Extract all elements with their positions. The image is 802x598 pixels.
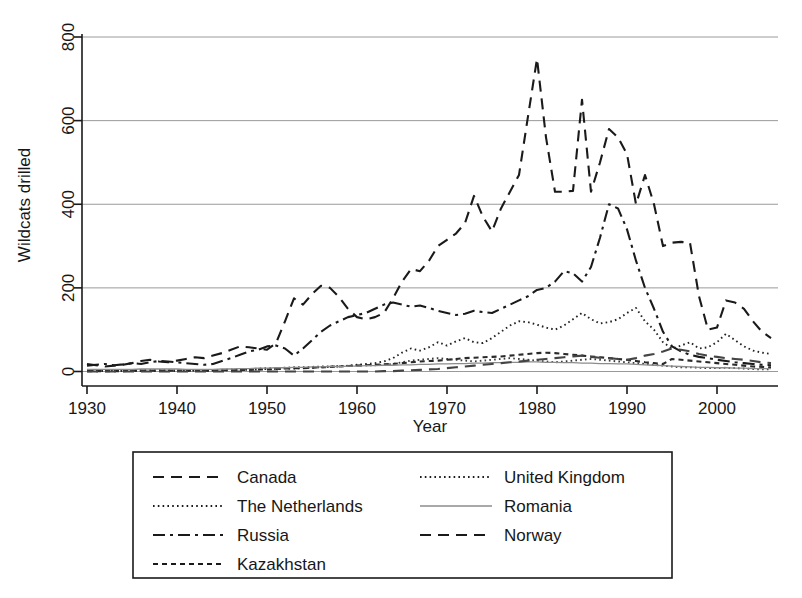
x-tick-label: 1980 [518, 399, 556, 418]
legend-label[interactable]: The Netherlands [237, 497, 363, 516]
chart-background [0, 0, 802, 598]
legend-label[interactable]: Romania [504, 497, 573, 516]
x-tick-label: 2000 [698, 399, 736, 418]
chart-canvas: 0200400600800 19301940195019601970198019… [0, 0, 802, 598]
legend-label[interactable]: Norway [504, 526, 562, 545]
legend-label[interactable]: Kazakhstan [237, 555, 326, 574]
x-axis-title: Year [413, 417, 448, 436]
x-tick-label: 1950 [248, 399, 286, 418]
y-tick-label: 600 [59, 106, 78, 134]
x-tick-label: 1990 [608, 399, 646, 418]
x-tick-label: 1930 [68, 399, 106, 418]
y-tick-label: 400 [59, 190, 78, 218]
y-tick-label: 800 [59, 23, 78, 51]
wildcats-drilled-chart: 0200400600800 19301940195019601970198019… [0, 0, 802, 598]
y-tick-label: 0 [59, 367, 78, 376]
x-tick-label: 1940 [158, 399, 196, 418]
legend-label[interactable]: United Kingdom [504, 468, 625, 487]
y-axis-title: Wildcats drilled [15, 148, 34, 262]
y-tick-label: 200 [59, 274, 78, 302]
legend-label[interactable]: Canada [237, 468, 297, 487]
x-tick-label: 1970 [428, 399, 466, 418]
x-tick-label: 1960 [338, 399, 376, 418]
legend-label[interactable]: Russia [237, 526, 290, 545]
